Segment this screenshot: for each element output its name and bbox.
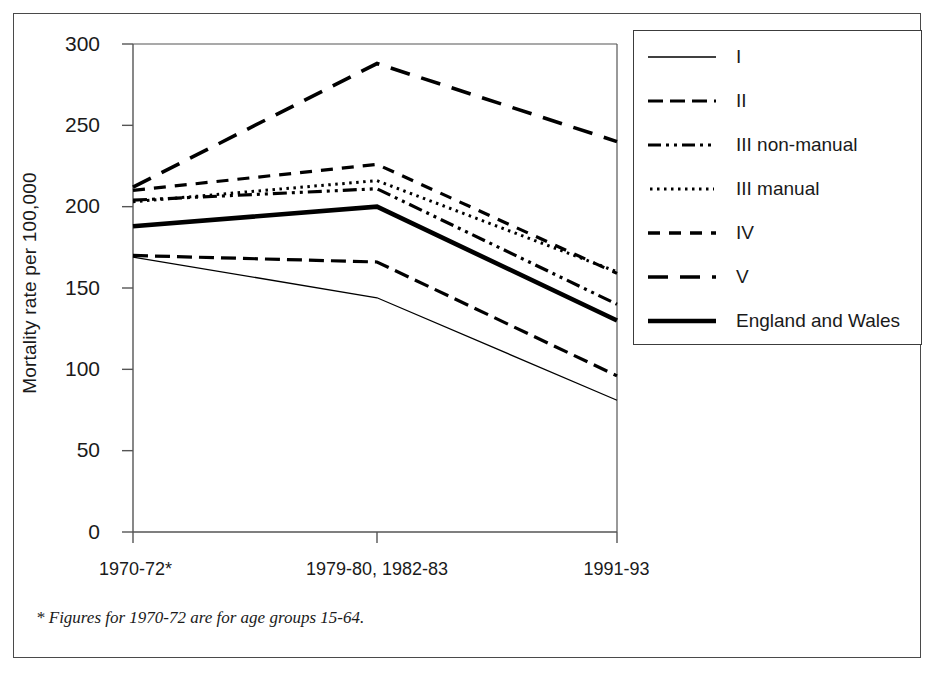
legend-item-5[interactable]: V — [646, 257, 911, 297]
legend-item-4[interactable]: IV — [646, 213, 911, 253]
y-tick-marks — [122, 44, 133, 532]
legend-label-1: II — [736, 90, 747, 112]
legend-swatch-2 — [646, 138, 718, 152]
legend-item-2[interactable]: III non-manual — [646, 125, 911, 165]
legend-label-3: III manual — [736, 178, 819, 200]
legend-label-5: V — [736, 266, 749, 288]
legend-swatch-3 — [646, 182, 718, 196]
series-line-5 — [133, 64, 617, 188]
legend-item-1[interactable]: II — [646, 81, 911, 121]
x-tick-marks — [133, 532, 617, 543]
legend-swatch-4 — [646, 226, 718, 240]
legend-item-6[interactable]: England and Wales — [646, 301, 911, 341]
legend-label-4: IV — [736, 222, 754, 244]
legend-box: I II III non-manual III manual IV V Engl… — [633, 30, 922, 345]
legend-label-2: III non-manual — [736, 134, 857, 156]
series-line-1 — [133, 255, 617, 375]
legend-label-6: England and Wales — [736, 310, 900, 332]
legend-item-3[interactable]: III manual — [646, 169, 911, 209]
series-lines-group — [133, 64, 617, 401]
legend-item-0[interactable]: I — [646, 37, 911, 77]
legend-swatch-5 — [646, 270, 718, 284]
legend-swatch-6 — [646, 314, 718, 328]
figure-container: Mortality rate per 100,000 300 250 200 1… — [0, 0, 934, 673]
series-line-6 — [133, 207, 617, 321]
legend-label-0: I — [736, 46, 741, 68]
legend-swatch-1 — [646, 94, 718, 108]
footnote-text: * Figures for 1970-72 are for age groups… — [36, 608, 364, 628]
legend-swatch-0 — [646, 50, 718, 64]
series-line-0 — [133, 257, 617, 400]
